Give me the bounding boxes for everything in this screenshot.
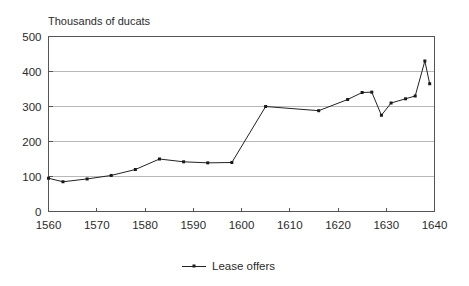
y-axis-caption: Thousands of ducats [48, 15, 151, 27]
data-point-marker [182, 160, 185, 163]
y-tick-label: 500 [22, 31, 41, 43]
x-tick-label: 1560 [36, 219, 62, 231]
data-point-marker [380, 114, 383, 117]
x-tick-label: 1610 [277, 219, 303, 231]
data-point-marker [264, 105, 267, 108]
data-point-marker [428, 82, 431, 85]
data-point-marker [134, 168, 137, 171]
data-point-marker [110, 174, 113, 177]
data-point-marker [370, 91, 373, 94]
x-tick-label: 1590 [180, 219, 206, 231]
data-point-marker [390, 102, 393, 105]
data-point-marker [404, 97, 407, 100]
data-point-marker [346, 98, 349, 101]
x-tick-label: 1620 [325, 219, 351, 231]
x-tick-label: 1640 [422, 219, 448, 231]
data-point-marker [47, 177, 50, 180]
data-point-marker [158, 158, 161, 161]
y-tick-label: 200 [22, 136, 41, 148]
data-point-marker [206, 161, 209, 164]
data-point-marker [317, 109, 320, 112]
x-tick-label: 1570 [84, 219, 110, 231]
y-tick-label: 400 [22, 66, 41, 78]
chart-container: Thousands of ducats 15601570158015901600… [0, 0, 469, 286]
x-tick-label: 1630 [373, 219, 399, 231]
x-tick-label: 1580 [132, 219, 158, 231]
legend-marker-swatch [193, 265, 196, 268]
x-tick-label: 1600 [229, 219, 255, 231]
legend-item-label: Lease offers [212, 260, 275, 272]
data-point-marker [61, 180, 64, 183]
line-chart: Thousands of ducats 15601570158015901600… [0, 0, 469, 286]
y-tick-label: 300 [22, 101, 41, 113]
data-point-marker [414, 95, 417, 98]
data-point-marker [86, 177, 89, 180]
data-point-marker [423, 60, 426, 63]
y-tick-label: 0 [35, 206, 41, 218]
data-point-marker [361, 91, 364, 94]
y-tick-label: 100 [22, 171, 41, 183]
chart-background [0, 0, 469, 286]
data-point-marker [230, 161, 233, 164]
